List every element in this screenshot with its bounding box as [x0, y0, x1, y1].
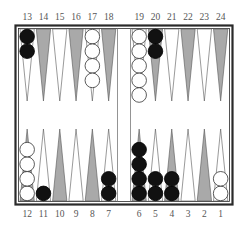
white-checker-point-12[interactable] [20, 157, 35, 172]
black-checker-point-20[interactable] [148, 44, 163, 59]
black-checker-point-4[interactable] [164, 186, 179, 201]
black-checker-point-6[interactable] [132, 186, 147, 201]
white-checker-point-1[interactable] [213, 186, 228, 201]
point-label-20: 20 [151, 12, 161, 22]
point-label-16: 16 [71, 12, 81, 22]
white-checker-point-17[interactable] [85, 29, 100, 44]
black-checker-point-5[interactable] [148, 186, 163, 201]
point-label-13: 13 [22, 12, 32, 22]
white-checker-point-12[interactable] [20, 172, 35, 187]
black-checker-point-4[interactable] [164, 172, 179, 187]
white-checker-point-12[interactable] [20, 186, 35, 201]
point-label-24: 24 [216, 12, 226, 22]
point-label-17: 17 [88, 12, 98, 22]
white-checker-point-17[interactable] [85, 59, 100, 74]
black-checker-point-7[interactable] [101, 172, 116, 187]
white-checker-point-19[interactable] [132, 88, 147, 103]
point-label-3: 3 [186, 209, 191, 219]
point-label-5: 5 [153, 209, 158, 219]
white-checker-point-19[interactable] [132, 29, 147, 44]
point-label-14: 14 [39, 12, 49, 22]
point-label-10: 10 [55, 209, 65, 219]
point-label-9: 9 [74, 209, 79, 219]
point-label-8: 8 [90, 209, 95, 219]
point-label-23: 23 [200, 12, 210, 22]
point-label-21: 21 [167, 12, 177, 22]
black-checker-point-5[interactable] [148, 172, 163, 187]
backgammon-board: 131415161718192021222324 121110987654321 [0, 0, 245, 230]
black-checker-point-6[interactable] [132, 157, 147, 172]
point-label-6: 6 [137, 209, 142, 219]
point-label-22: 22 [183, 12, 193, 22]
point-label-12: 12 [22, 209, 32, 219]
white-checker-point-19[interactable] [132, 59, 147, 74]
black-checker-point-11[interactable] [36, 186, 51, 201]
point-label-11: 11 [39, 209, 48, 219]
black-checker-point-20[interactable] [148, 29, 163, 44]
point-label-15: 15 [55, 12, 65, 22]
point-label-19: 19 [134, 12, 144, 22]
white-checker-point-19[interactable] [132, 44, 147, 59]
black-checker-point-6[interactable] [132, 172, 147, 187]
white-checker-point-17[interactable] [85, 44, 100, 59]
black-checker-point-6[interactable] [132, 142, 147, 157]
top-point-labels: 131415161718192021222324 [22, 12, 225, 22]
point-label-1: 1 [218, 209, 223, 219]
point-label-2: 2 [202, 209, 207, 219]
white-checker-point-19[interactable] [132, 73, 147, 88]
bottom-point-labels: 121110987654321 [22, 209, 223, 219]
black-checker-point-13[interactable] [20, 44, 35, 59]
point-label-4: 4 [169, 209, 174, 219]
black-checker-point-13[interactable] [20, 29, 35, 44]
point-label-7: 7 [106, 209, 111, 219]
white-checker-point-12[interactable] [20, 142, 35, 157]
point-label-18: 18 [104, 12, 114, 22]
white-checker-point-1[interactable] [213, 172, 228, 187]
white-checker-point-17[interactable] [85, 73, 100, 88]
black-checker-point-7[interactable] [101, 186, 116, 201]
